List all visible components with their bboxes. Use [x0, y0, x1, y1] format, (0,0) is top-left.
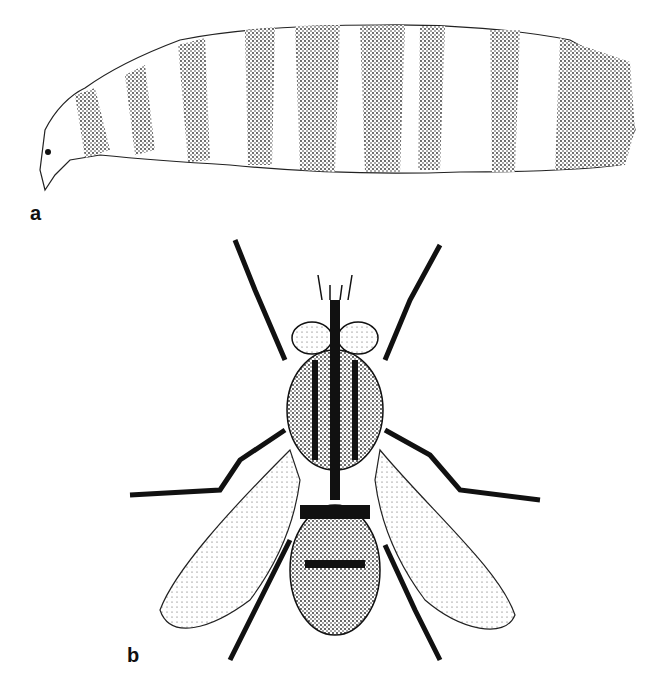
panel-label-b: b [127, 644, 139, 666]
larva-drawing [40, 25, 635, 190]
fly-drawing [130, 240, 540, 660]
figure-illustration: a b [0, 0, 672, 697]
panel-label-a: a [30, 202, 42, 224]
